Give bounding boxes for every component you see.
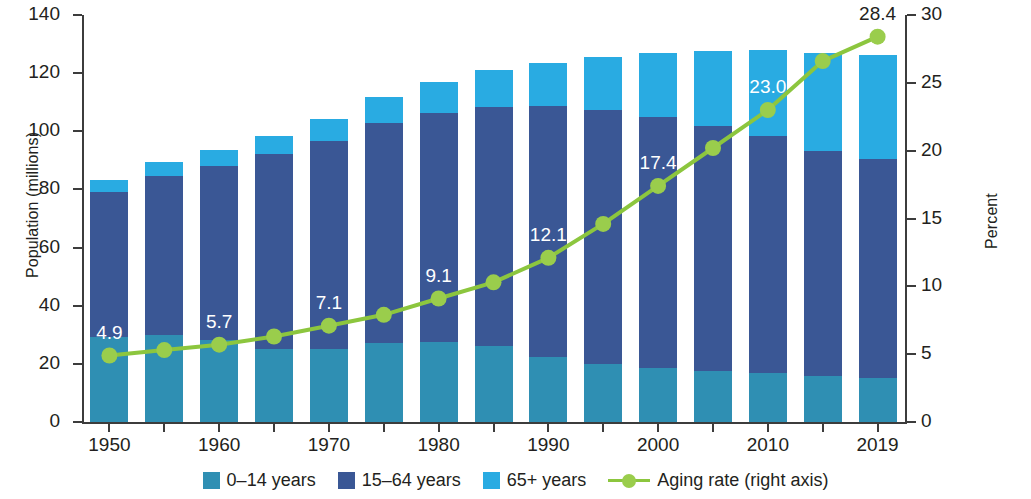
stacked-bar[interactable] bbox=[90, 15, 128, 422]
bar-segment-15-64[interactable] bbox=[90, 192, 128, 336]
aging-rate-data-label: 4.9 bbox=[79, 322, 139, 344]
x-axis-tick-label: 2010 bbox=[728, 434, 808, 456]
bar-segment-65-plus[interactable] bbox=[90, 180, 128, 192]
y-axis-left-tick-label: 140 bbox=[16, 3, 60, 25]
aging-rate-data-label: 12.1 bbox=[518, 224, 578, 246]
bar-segment-15-64[interactable] bbox=[804, 151, 842, 376]
y-axis-left-tick bbox=[73, 14, 82, 16]
bar-segment-0-14[interactable] bbox=[420, 342, 458, 422]
bar-segment-65-plus[interactable] bbox=[255, 136, 293, 154]
bar-segment-65-plus[interactable] bbox=[694, 51, 732, 126]
bar-segment-15-64[interactable] bbox=[310, 141, 348, 349]
y-axis-right-tick-label: 20 bbox=[921, 139, 965, 161]
y-axis-right-tick bbox=[907, 421, 916, 423]
y-axis-left-title: Population (millions) bbox=[24, 80, 42, 330]
aging-rate-data-label: 17.4 bbox=[628, 152, 688, 174]
legend-label: 15–64 years bbox=[362, 470, 461, 491]
stacked-bar[interactable] bbox=[639, 15, 677, 422]
stacked-bar[interactable] bbox=[255, 15, 293, 422]
aging-rate-data-label: 7.1 bbox=[299, 292, 359, 314]
bar-segment-65-plus[interactable] bbox=[310, 119, 348, 141]
x-axis-tick-label: 1970 bbox=[289, 434, 369, 456]
x-axis-tick bbox=[877, 424, 879, 432]
stacked-bar[interactable] bbox=[584, 15, 622, 422]
stacked-bar[interactable] bbox=[859, 15, 897, 422]
legend-item[interactable]: 0–14 years bbox=[203, 470, 316, 491]
stacked-bar[interactable] bbox=[365, 15, 403, 422]
bar-segment-65-plus[interactable] bbox=[200, 150, 238, 166]
bar-segment-15-64[interactable] bbox=[145, 176, 183, 335]
bar-segment-0-14[interactable] bbox=[255, 349, 293, 422]
chart-legend: 0–14 years15–64 years65+ yearsAging rate… bbox=[0, 470, 1031, 491]
aging-rate-data-label: 5.7 bbox=[189, 311, 249, 333]
y-axis-right-tick bbox=[907, 218, 916, 220]
y-axis-left-line bbox=[82, 15, 84, 424]
y-axis-right-tick bbox=[907, 285, 916, 287]
stacked-bar[interactable] bbox=[475, 15, 513, 422]
stacked-bar[interactable] bbox=[420, 15, 458, 422]
x-axis-tick-label: 1980 bbox=[399, 434, 479, 456]
bar-segment-65-plus[interactable] bbox=[420, 82, 458, 113]
y-axis-right-tick-label: 5 bbox=[921, 342, 965, 364]
bar-segment-0-14[interactable] bbox=[200, 340, 238, 422]
bar-segment-0-14[interactable] bbox=[475, 346, 513, 422]
legend-swatch-icon bbox=[203, 472, 220, 489]
x-axis-tick-label: 2019 bbox=[838, 434, 918, 456]
bar-segment-15-64[interactable] bbox=[749, 136, 787, 374]
y-axis-left-tick-label: 40 bbox=[16, 294, 60, 316]
bar-segment-0-14[interactable] bbox=[584, 364, 622, 422]
bar-segment-0-14[interactable] bbox=[310, 349, 348, 422]
bar-segment-65-plus[interactable] bbox=[475, 70, 513, 106]
bar-segment-15-64[interactable] bbox=[859, 159, 897, 377]
bar-segment-15-64[interactable] bbox=[255, 154, 293, 349]
stacked-bar[interactable] bbox=[310, 15, 348, 422]
bar-segment-65-plus[interactable] bbox=[529, 63, 567, 106]
stacked-bar[interactable] bbox=[200, 15, 238, 422]
legend-label: 0–14 years bbox=[227, 470, 316, 491]
bar-segment-0-14[interactable] bbox=[804, 376, 842, 422]
bar-segment-65-plus[interactable] bbox=[584, 57, 622, 110]
bar-segment-0-14[interactable] bbox=[749, 373, 787, 422]
chart-canvas: Population (millions) Percent 0204060801… bbox=[0, 0, 1031, 499]
bar-segment-15-64[interactable] bbox=[584, 110, 622, 364]
legend-item[interactable]: Aging rate (right axis) bbox=[608, 470, 828, 491]
x-axis-tick bbox=[273, 424, 275, 432]
bar-segment-65-plus[interactable] bbox=[365, 97, 403, 123]
bar-segment-65-plus[interactable] bbox=[804, 53, 842, 152]
legend-item[interactable]: 65+ years bbox=[483, 470, 587, 491]
x-axis-tick bbox=[163, 424, 165, 432]
y-axis-left-tick-label: 100 bbox=[16, 119, 60, 141]
bar-segment-15-64[interactable] bbox=[420, 113, 458, 342]
bar-segment-65-plus[interactable] bbox=[639, 53, 677, 117]
x-axis-tick bbox=[602, 424, 604, 432]
legend-label: Aging rate (right axis) bbox=[657, 470, 828, 491]
legend-item[interactable]: 15–64 years bbox=[338, 470, 461, 491]
stacked-bar[interactable] bbox=[529, 15, 567, 422]
stacked-bar[interactable] bbox=[694, 15, 732, 422]
legend-swatch-icon bbox=[338, 472, 355, 489]
bar-segment-0-14[interactable] bbox=[365, 343, 403, 422]
y-axis-left-tick bbox=[73, 363, 82, 365]
y-axis-left-tick-label: 20 bbox=[16, 352, 60, 374]
bar-segment-65-plus[interactable] bbox=[145, 162, 183, 176]
bar-segment-15-64[interactable] bbox=[694, 126, 732, 371]
bar-segment-0-14[interactable] bbox=[694, 371, 732, 422]
bar-segment-0-14[interactable] bbox=[529, 357, 567, 422]
bar-segment-0-14[interactable] bbox=[90, 337, 128, 422]
bar-segment-15-64[interactable] bbox=[475, 107, 513, 347]
y-axis-left-tick bbox=[73, 247, 82, 249]
legend-label: 65+ years bbox=[507, 470, 587, 491]
bar-segment-65-plus[interactable] bbox=[859, 55, 897, 159]
stacked-bar[interactable] bbox=[145, 15, 183, 422]
bar-segment-0-14[interactable] bbox=[145, 335, 183, 422]
stacked-bar[interactable] bbox=[804, 15, 842, 422]
aging-rate-data-label: 28.4 bbox=[848, 3, 908, 25]
y-axis-left-tick-label: 80 bbox=[16, 177, 60, 199]
x-axis-tick-label: 1990 bbox=[508, 434, 588, 456]
bar-segment-0-14[interactable] bbox=[859, 378, 897, 422]
y-axis-right-tick bbox=[907, 150, 916, 152]
bar-segment-0-14[interactable] bbox=[639, 368, 677, 422]
bar-segment-15-64[interactable] bbox=[365, 123, 403, 343]
y-axis-left-tick bbox=[73, 130, 82, 132]
x-axis-tick bbox=[438, 424, 440, 432]
